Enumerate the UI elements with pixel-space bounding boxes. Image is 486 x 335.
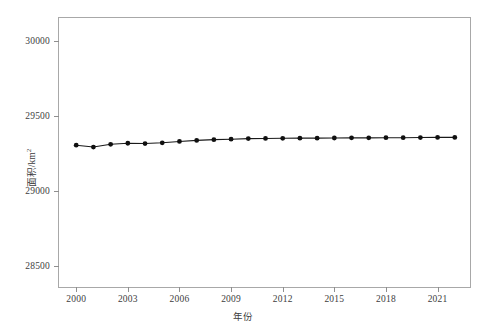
y-axis-tick-label: 29000: [25, 186, 50, 196]
y-axis-title-superscript: 2: [25, 148, 33, 152]
data-point: [108, 142, 113, 147]
data-point: [246, 136, 251, 141]
x-axis-tick-label: 2015: [324, 294, 344, 304]
x-axis-tick-label: 2018: [376, 294, 396, 304]
data-point: [211, 137, 216, 142]
data-point: [315, 136, 320, 141]
data-point: [435, 135, 440, 140]
data-point: [384, 135, 389, 140]
x-axis-tick-label: 2012: [273, 294, 293, 304]
data-point: [194, 138, 199, 143]
data-point: [91, 145, 96, 150]
data-point: [160, 140, 165, 145]
x-axis-tick-label: 2003: [118, 294, 138, 304]
data-point: [280, 136, 285, 141]
y-axis-tick-label: 28500: [25, 261, 50, 271]
x-axis-tick-label: 2021: [428, 294, 448, 304]
y-axis-title-base: 面积/km: [27, 152, 37, 187]
x-axis-title: 年份: [233, 309, 253, 323]
y-axis-tick-label: 30000: [25, 36, 50, 46]
data-point: [366, 135, 371, 140]
data-point: [143, 141, 148, 146]
x-axis-tick-label: 2009: [221, 294, 241, 304]
data-point: [177, 139, 182, 144]
y-axis-title: 面积/km2: [24, 148, 38, 186]
data-point: [349, 135, 354, 140]
data-point: [418, 135, 423, 140]
x-axis-tick-label: 2006: [170, 294, 190, 304]
data-point: [263, 136, 268, 141]
chart-figure: 面积/km2 年份 28500290002950030000 200020032…: [0, 0, 486, 335]
data-point: [229, 137, 234, 142]
data-point: [125, 141, 130, 146]
data-point: [298, 136, 303, 141]
plot-area: 28500290002950030000 2000200320062009201…: [58, 17, 471, 288]
series-layer: [59, 18, 472, 289]
y-axis-tick-label: 29500: [25, 111, 50, 121]
x-axis-tick-label: 2000: [66, 294, 86, 304]
data-point: [452, 135, 457, 140]
data-point: [401, 135, 406, 140]
data-point: [74, 143, 79, 148]
data-point: [332, 136, 337, 141]
